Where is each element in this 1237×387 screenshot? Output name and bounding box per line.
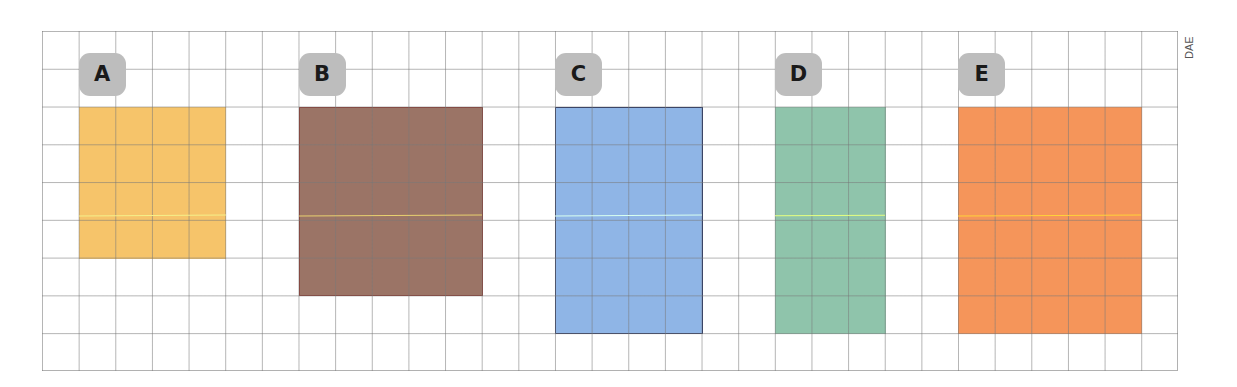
label-e: E <box>974 62 988 86</box>
side-label: DAE <box>1183 35 1197 61</box>
grid-diagram: A B C D E <box>42 31 1178 371</box>
shape-e <box>958 107 1142 335</box>
shape-a <box>79 107 227 259</box>
shape-d <box>775 107 886 335</box>
label-badge-d: D <box>775 53 822 96</box>
label-badge-c: C <box>555 53 602 96</box>
shape-c <box>555 107 703 335</box>
label-badge-e: E <box>958 53 1005 96</box>
label-a: A <box>94 62 110 86</box>
label-d: D <box>790 62 807 86</box>
label-badge-b: B <box>299 53 346 96</box>
shape-b <box>299 107 483 297</box>
label-b: B <box>314 62 330 86</box>
label-c: C <box>571 62 586 86</box>
label-badge-a: A <box>79 53 126 96</box>
